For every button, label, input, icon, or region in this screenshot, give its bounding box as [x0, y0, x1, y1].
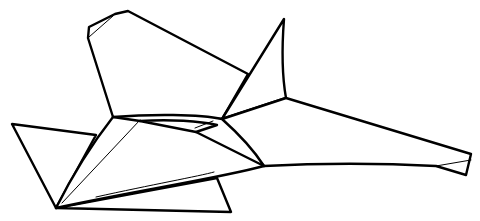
aircraft-svg: [0, 0, 480, 221]
aircraft-drawing: Line drawing of a stylized jet aircraft: [0, 0, 480, 221]
upper-wing: [88, 11, 248, 119]
